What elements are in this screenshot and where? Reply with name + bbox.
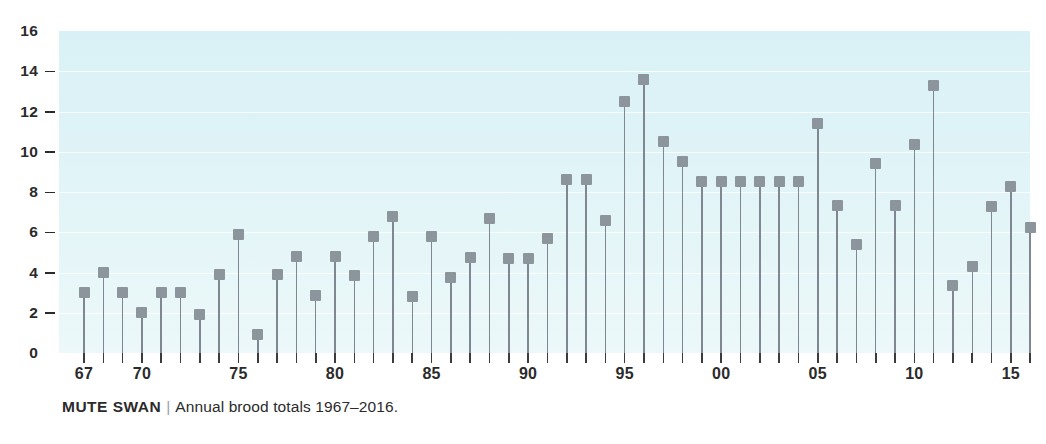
data-stem bbox=[605, 220, 607, 353]
data-point-marker bbox=[832, 200, 843, 211]
data-stem bbox=[836, 205, 838, 353]
x-axis-tick bbox=[160, 353, 162, 363]
y-axis-tick-label: 12 bbox=[20, 104, 38, 120]
x-axis-tick bbox=[122, 353, 124, 363]
x-axis-tick-label: 90 bbox=[519, 365, 537, 383]
data-stem bbox=[991, 206, 993, 353]
x-axis-tick bbox=[759, 353, 761, 363]
gridline bbox=[59, 112, 1030, 113]
data-stem bbox=[160, 293, 162, 353]
gridline bbox=[59, 152, 1030, 153]
data-point-marker bbox=[136, 307, 147, 318]
chart-caption: MUTE SWAN|Annual brood totals 1967–2016. bbox=[62, 398, 398, 416]
data-stem bbox=[412, 297, 414, 353]
data-stem bbox=[817, 124, 819, 353]
data-point-marker bbox=[716, 176, 727, 187]
data-stem bbox=[199, 315, 201, 353]
x-axis-tick bbox=[701, 353, 703, 363]
data-stem bbox=[682, 162, 684, 353]
y-axis-tick: 14 bbox=[0, 63, 59, 79]
data-stem bbox=[83, 293, 85, 353]
x-axis-tick bbox=[373, 353, 375, 363]
y-axis-tick: 2 bbox=[0, 305, 59, 321]
y-axis-tick-label: 8 bbox=[29, 184, 38, 200]
x-axis-tick bbox=[527, 353, 529, 363]
data-point-marker bbox=[600, 215, 611, 226]
x-axis-tick bbox=[894, 353, 896, 363]
caption-species: MUTE SWAN bbox=[62, 398, 161, 415]
x-axis-tick-label: 15 bbox=[1002, 365, 1020, 383]
data-point-marker bbox=[503, 253, 514, 264]
x-axis-tick bbox=[682, 353, 684, 363]
x-axis-tick bbox=[354, 353, 356, 363]
data-point-marker bbox=[523, 253, 534, 264]
x-axis-tick bbox=[971, 353, 973, 363]
x-axis-tick-label: 75 bbox=[229, 365, 247, 383]
x-axis-tick bbox=[585, 353, 587, 363]
data-point-marker bbox=[484, 213, 495, 224]
y-axis-tick: 6 bbox=[0, 224, 59, 240]
x-axis-tick-label: 10 bbox=[905, 365, 923, 383]
data-stem bbox=[1010, 187, 1012, 353]
data-point-marker bbox=[233, 229, 244, 240]
y-axis-tick: 4 bbox=[0, 265, 59, 281]
x-axis-tick bbox=[836, 353, 838, 363]
data-point-marker bbox=[696, 176, 707, 187]
x-axis-tick bbox=[778, 353, 780, 363]
x-axis-tick-label: 00 bbox=[712, 365, 730, 383]
data-point-marker bbox=[291, 251, 302, 262]
data-point-marker bbox=[407, 291, 418, 302]
data-stem bbox=[547, 238, 549, 353]
data-stem bbox=[103, 273, 105, 354]
x-axis-tick bbox=[605, 353, 607, 363]
x-axis-tick-label: 80 bbox=[326, 365, 344, 383]
caption-separator: | bbox=[161, 398, 175, 415]
x-axis: 6770758085909500051015 bbox=[0, 353, 1046, 393]
data-point-marker bbox=[928, 80, 939, 91]
data-point-marker bbox=[252, 329, 263, 340]
data-point-marker bbox=[793, 176, 804, 187]
data-point-marker bbox=[774, 176, 785, 187]
data-point-marker bbox=[272, 269, 283, 280]
x-axis-tick bbox=[180, 353, 182, 363]
y-axis: 0246810121416 bbox=[0, 0, 59, 384]
x-axis-tick bbox=[508, 353, 510, 363]
x-axis-tick bbox=[315, 353, 317, 363]
data-point-marker bbox=[870, 158, 881, 169]
x-axis-tick bbox=[431, 353, 433, 363]
x-axis-tick bbox=[624, 353, 626, 363]
x-axis-tick bbox=[798, 353, 800, 363]
data-point-marker bbox=[98, 267, 109, 278]
x-axis-tick bbox=[933, 353, 935, 363]
x-axis-tick bbox=[875, 353, 877, 363]
x-axis-tick bbox=[720, 353, 722, 363]
y-axis-tick-dash bbox=[45, 111, 55, 113]
data-point-marker bbox=[156, 287, 167, 298]
x-axis-tick bbox=[141, 353, 143, 363]
y-axis-tick-dash bbox=[45, 232, 55, 234]
y-axis-tick-label: 16 bbox=[20, 23, 38, 39]
data-stem bbox=[585, 180, 587, 353]
x-axis-tick-label: 70 bbox=[133, 365, 151, 383]
x-axis-tick bbox=[218, 353, 220, 363]
data-stem bbox=[296, 256, 298, 353]
x-axis-tick bbox=[740, 353, 742, 363]
x-axis-tick bbox=[296, 353, 298, 363]
x-axis-tick bbox=[238, 353, 240, 363]
data-stem bbox=[218, 275, 220, 353]
data-point-marker bbox=[812, 118, 823, 129]
x-axis-tick bbox=[257, 353, 259, 363]
x-axis-tick bbox=[1010, 353, 1012, 363]
x-axis-tick bbox=[469, 353, 471, 363]
x-axis-tick bbox=[334, 353, 336, 363]
data-point-marker bbox=[947, 280, 958, 291]
x-axis-tick-label: 05 bbox=[809, 365, 827, 383]
data-stem bbox=[720, 182, 722, 353]
data-point-marker bbox=[909, 139, 920, 150]
x-axis-tick bbox=[952, 353, 954, 363]
data-stem bbox=[373, 236, 375, 353]
x-axis-tick bbox=[103, 353, 105, 363]
data-stem bbox=[315, 296, 317, 353]
data-stem bbox=[508, 258, 510, 353]
data-point-marker bbox=[581, 174, 592, 185]
